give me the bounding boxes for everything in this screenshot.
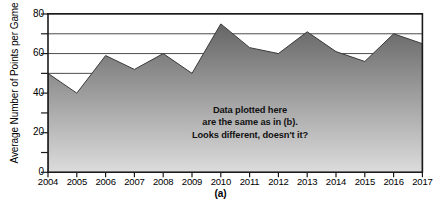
x-axis-label-2014: 2014 bbox=[321, 176, 351, 187]
x-axis-label-2017: 2017 bbox=[407, 176, 437, 187]
x-axis-label-2007: 2007 bbox=[119, 176, 149, 187]
figure-panel-a: Average Number of Points per Game 80 60 … bbox=[0, 0, 441, 207]
x-axis-label-2005: 2005 bbox=[62, 176, 92, 187]
x-axis-label-2004: 2004 bbox=[33, 176, 63, 187]
x-axis-label-2008: 2008 bbox=[148, 176, 178, 187]
x-axis-label-2009: 2009 bbox=[177, 176, 207, 187]
chart-annotation: Data plotted here are the same as in (b)… bbox=[150, 104, 350, 141]
x-axis-label-2016: 2016 bbox=[379, 176, 409, 187]
x-axis-label-2010: 2010 bbox=[206, 176, 236, 187]
x-axis-label-2015: 2015 bbox=[350, 176, 380, 187]
y-tick-group bbox=[41, 14, 48, 172]
x-axis-label-2006: 2006 bbox=[91, 176, 121, 187]
annotation-line-3: Looks different, doesn't it? bbox=[150, 129, 350, 141]
x-axis-label-2013: 2013 bbox=[292, 176, 322, 187]
x-axis-label-2011: 2011 bbox=[235, 176, 265, 187]
annotation-line-1: Data plotted here bbox=[150, 104, 350, 116]
panel-label: (a) bbox=[0, 188, 441, 199]
annotation-line-2: are the same as in (b). bbox=[150, 116, 350, 128]
x-axis-label-2012: 2012 bbox=[263, 176, 293, 187]
